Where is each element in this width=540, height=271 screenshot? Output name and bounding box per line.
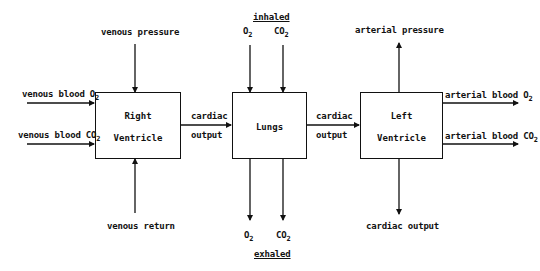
label-exhaled-co2: CO2 — [276, 230, 290, 240]
block-left-ventricle: Left Ventricle — [360, 92, 443, 159]
block-label: Ventricle — [361, 133, 442, 143]
label-cardiac-output: cardiac output — [366, 221, 439, 231]
label-inhaled-o2: O2 — [243, 26, 252, 36]
label-inhaled: inhaled — [253, 12, 290, 22]
label-venous-return: venous return — [107, 221, 175, 231]
label-venous-blood-o2: venous blood O2 — [22, 89, 99, 99]
label-venous-pressure: venous pressure — [101, 27, 179, 37]
label-output: output — [191, 130, 222, 140]
block-label: Right — [96, 111, 180, 121]
label-exhaled-o2: O2 — [244, 230, 253, 240]
block-lungs: Lungs — [232, 92, 307, 159]
block-label: Left — [361, 111, 442, 121]
label-exhaled: exhaled — [254, 249, 291, 259]
label-inhaled-co2: CO2 — [274, 26, 288, 36]
label-arterial-blood-o2: arterial blood O2 — [445, 90, 533, 100]
label-arterial-blood-co2: arterial blood CO2 — [445, 131, 538, 141]
block-right-ventricle: Right Ventricle — [95, 92, 181, 159]
block-label: Ventricle — [96, 133, 180, 143]
block-label: Lungs — [233, 122, 306, 132]
label-cardiac: cardiac — [191, 111, 228, 121]
label-venous-blood-co2: venous blood CO2 — [18, 130, 100, 140]
label-cardiac: cardiac — [316, 111, 353, 121]
label-arterial-pressure: arterial pressure — [355, 25, 444, 35]
label-output: output — [316, 130, 347, 140]
